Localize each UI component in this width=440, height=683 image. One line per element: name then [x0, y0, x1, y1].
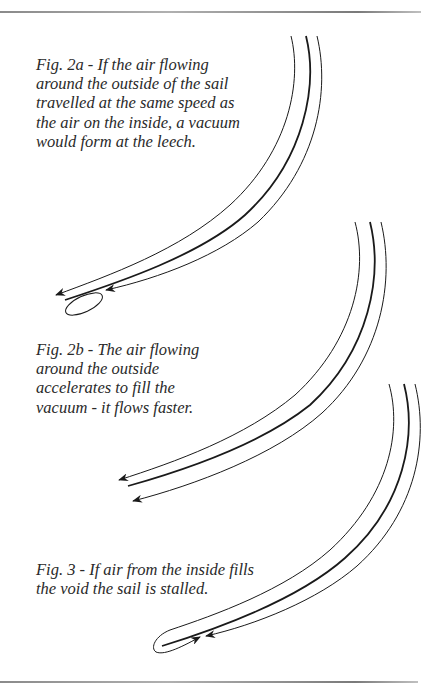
fig-2a-diagram: [56, 36, 322, 320]
inside-airflow-arrow: [133, 222, 386, 501]
fig-2b-diagram: [119, 222, 386, 501]
outside-airflow-arrow: [119, 222, 360, 480]
sail-line: [65, 36, 310, 300]
outer-flow-loop: [154, 384, 394, 653]
sail-line: [128, 222, 375, 486]
outside-airflow-arrow: [56, 36, 295, 295]
fig-3-diagram: [154, 384, 421, 653]
inside-airflow-arrow: [106, 36, 322, 290]
inside-airflow-arrow: [206, 384, 420, 636]
sail-flow-diagrams: [0, 0, 440, 683]
